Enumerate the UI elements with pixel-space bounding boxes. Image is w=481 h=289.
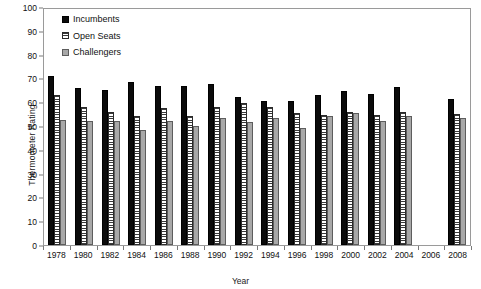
legend-swatch-incumbents-icon: [62, 16, 69, 23]
y-axis-tick-mark: [39, 103, 43, 104]
x-axis-tick-label: 1988: [181, 250, 200, 260]
x-axis-tick-mark: [311, 246, 312, 250]
bar-group: [204, 9, 231, 245]
y-axis-tick-label: 70: [3, 74, 37, 84]
bar-challengers: [220, 118, 226, 245]
x-axis-tick-label: 2004: [395, 250, 414, 260]
bar-group: [310, 9, 337, 245]
bar-group: [417, 9, 444, 245]
legend-label-open-seats: Open Seats: [73, 31, 121, 41]
bar-challengers: [167, 121, 173, 245]
y-axis-tick-label: 80: [3, 51, 37, 61]
bar-group: [230, 9, 257, 245]
bar-group: [151, 9, 178, 245]
bar-challengers: [300, 128, 306, 245]
x-axis-tick-mark: [204, 246, 205, 250]
chart-legend: Incumbents Open Seats Challengers: [62, 14, 121, 57]
x-axis-tick-label: 1990: [207, 250, 226, 260]
bar-challengers: [406, 116, 412, 245]
legend-label-incumbents: Incumbents: [73, 14, 120, 24]
y-axis-tick-mark: [39, 31, 43, 32]
bar-challengers: [114, 121, 120, 245]
x-axis-tick-mark: [230, 246, 231, 250]
x-axis-tick-mark: [257, 246, 258, 250]
thermometer-rating-bar-chart: Thermometer Rating 010203040506070809010…: [0, 0, 481, 289]
x-axis-tick-label: 1998: [314, 250, 333, 260]
bar-challengers: [140, 130, 146, 245]
x-axis-tick-mark: [471, 246, 472, 250]
bar-group: [177, 9, 204, 245]
legend-item-open-seats: Open Seats: [62, 31, 121, 41]
x-axis-tick-mark: [337, 246, 338, 250]
x-axis-tick-mark: [70, 246, 71, 250]
bar-challengers: [353, 113, 359, 245]
x-axis-title: Year: [0, 276, 481, 286]
legend-label-challengers: Challengers: [73, 47, 121, 57]
y-axis-tick-label: 20: [3, 193, 37, 203]
bar-group: [337, 9, 364, 245]
legend-swatch-challengers-icon: [62, 49, 69, 56]
bar-group: [390, 9, 417, 245]
x-axis-tick-label: 2006: [421, 250, 440, 260]
y-axis-tick-label: 30: [3, 170, 37, 180]
x-axis-tick-mark: [391, 246, 392, 250]
y-axis-tick-mark: [39, 174, 43, 175]
x-axis-tick-mark: [123, 246, 124, 250]
bar-challengers: [87, 121, 93, 245]
bar-group: [284, 9, 311, 245]
x-axis-tick-label: 1986: [154, 250, 173, 260]
bar-challengers: [460, 118, 466, 245]
x-axis-tick-mark: [150, 246, 151, 250]
x-axis-tick-mark: [284, 246, 285, 250]
x-axis-tick-label: 2008: [448, 250, 467, 260]
y-axis-tick-mark: [39, 79, 43, 80]
y-axis-tick-label: 40: [3, 146, 37, 156]
y-axis-tick-mark: [39, 222, 43, 223]
y-axis-tick-label: 60: [3, 98, 37, 108]
x-axis-tick-label: 1984: [127, 250, 146, 260]
x-axis-tick-label: 2000: [341, 250, 360, 260]
y-axis-tick-label: 100: [3, 3, 37, 13]
x-axis-tick-mark: [97, 246, 98, 250]
x-axis-tick-mark: [418, 246, 419, 250]
legend-item-challengers: Challengers: [62, 47, 121, 57]
bar-challengers: [273, 118, 279, 245]
x-axis-tick-label: 2002: [368, 250, 387, 260]
y-axis-tick-label: 0: [3, 241, 37, 251]
y-axis-tick-mark: [39, 55, 43, 56]
bar-group: [257, 9, 284, 245]
bar-challengers: [60, 120, 66, 245]
x-axis-tick-label: 1992: [234, 250, 253, 260]
legend-swatch-open-seats-icon: [62, 32, 69, 39]
y-axis-tick-mark: [39, 150, 43, 151]
y-axis-tick-label: 90: [3, 27, 37, 37]
bar-challengers: [327, 116, 333, 245]
legend-item-incumbents: Incumbents: [62, 14, 121, 24]
x-axis-tick-mark: [177, 246, 178, 250]
x-axis-tick-mark: [364, 246, 365, 250]
bar-group: [124, 9, 151, 245]
x-axis-tick-label: 1982: [100, 250, 119, 260]
y-axis-tick-mark: [39, 127, 43, 128]
x-axis-tick-mark: [444, 246, 445, 250]
y-axis-tick-mark: [39, 198, 43, 199]
x-axis-tick-label: 1996: [288, 250, 307, 260]
x-axis-tick-label: 1994: [261, 250, 280, 260]
x-axis-tick-mark: [43, 246, 44, 250]
y-axis-tick-label: 10: [3, 217, 37, 227]
y-axis-tick-mark: [39, 8, 43, 9]
bar-group: [443, 9, 470, 245]
x-axis-tick-label: 1978: [47, 250, 66, 260]
bar-challengers: [247, 122, 253, 245]
bar-challengers: [380, 121, 386, 245]
bar-group: [364, 9, 391, 245]
bar-challengers: [193, 126, 199, 245]
y-axis-tick-label: 50: [3, 122, 37, 132]
x-axis-tick-label: 1980: [74, 250, 93, 260]
